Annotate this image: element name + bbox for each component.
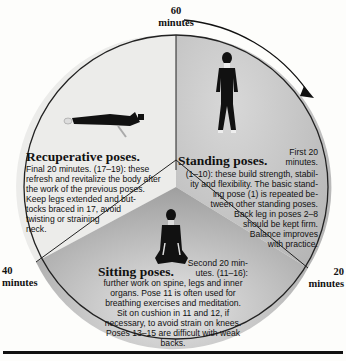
text-line: should be kept firm. (178, 219, 318, 229)
time-label-60: 60 minutes (156, 5, 196, 29)
time-unit: minutes (156, 17, 196, 29)
sitting-heading: Sitting poses. (98, 265, 174, 279)
text-line: Balance improves (178, 229, 318, 239)
text-line: First 20 (286, 147, 318, 157)
time-value: 20 (300, 266, 344, 278)
standing-text-block: Standing poses. First 20 minutes. (1–10)… (178, 147, 318, 249)
text-line: refresh and revitalize the body after (26, 174, 176, 184)
text-line: backs. (98, 338, 248, 348)
sitting-text-block: Sitting poses. Second 20 min- utes. (11–… (98, 258, 248, 348)
text-line: necessary, to avoid strain on knees. (98, 318, 248, 328)
text-line: ity and flexibility. The basic stand- (178, 179, 318, 189)
time-label-20: 20 minutes (300, 266, 344, 290)
time-unit: minutes (300, 278, 344, 290)
text-line: Poses 13–15 are difficult with weak (98, 328, 248, 338)
text-line: minutes. (286, 157, 318, 167)
text-line: Sit on cushion in 11 and 12, if (98, 308, 248, 318)
time-value: 40 (2, 265, 44, 277)
text-line: Back leg in poses 2–8 (178, 209, 318, 219)
text-line: Final 20 minutes. (17–19): these (26, 164, 176, 174)
time-label-40: 40 minutes (2, 265, 44, 289)
text-line: utes. (11–16): (188, 268, 248, 278)
recuperative-text-block: Recuperative poses. Final 20 minutes. (1… (26, 150, 176, 234)
bottom-rule-divider (3, 351, 343, 354)
text-line: tocks braced in 17, avoid (26, 204, 176, 214)
recuperative-heading: Recuperative poses. (26, 150, 176, 164)
text-line: ing pose (1) is repeated be- (178, 189, 318, 199)
text-line: breathing exercises and meditation. (98, 298, 248, 308)
text-line: the work of the previous poses. (26, 184, 176, 194)
text-line: further work on spine, legs and inner (98, 278, 248, 288)
text-line: tween other standing poses. (178, 199, 318, 209)
text-line: with practice. (178, 239, 318, 249)
time-value: 60 (156, 5, 196, 17)
text-line: neck. (26, 224, 176, 234)
text-line: twisting or straining (26, 214, 176, 224)
text-line: Keep legs extended and but- (26, 194, 176, 204)
time-unit: minutes (2, 277, 44, 289)
text-line: Second 20 min- (188, 258, 248, 268)
standing-heading: Standing poses. (178, 154, 267, 168)
text-line: organs. Pose 11 is often used for (98, 288, 248, 298)
text-line: (1–10): these build strength, stabil- (178, 169, 318, 179)
